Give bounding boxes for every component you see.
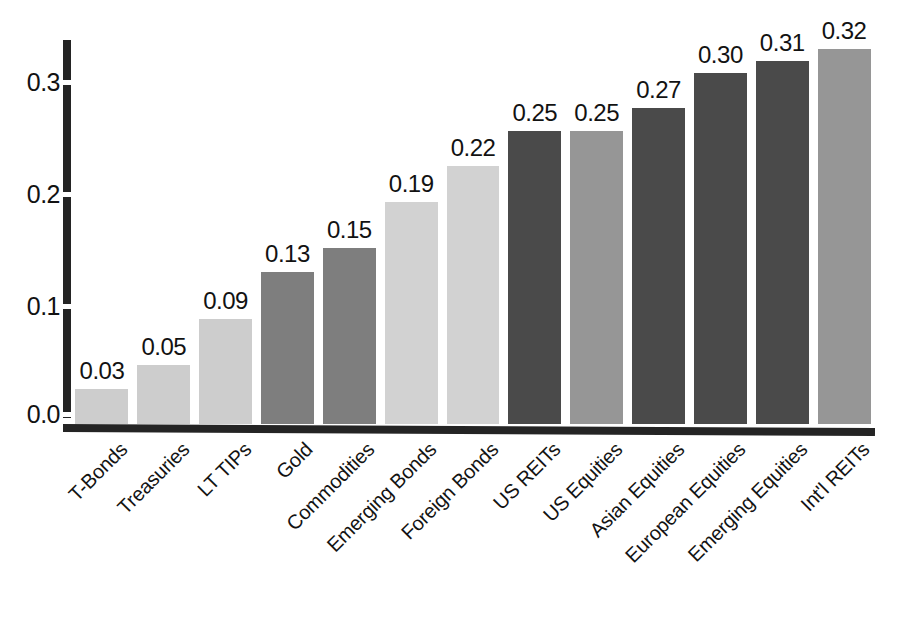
bar-group: 0.13 bbox=[261, 20, 314, 424]
bar bbox=[818, 49, 871, 424]
bar-value-label: 0.25 bbox=[512, 101, 557, 125]
bar bbox=[75, 389, 128, 424]
bar bbox=[323, 248, 376, 424]
bar bbox=[570, 131, 623, 424]
bar-value-label: 0.05 bbox=[141, 335, 186, 359]
bar-value-label: 0.32 bbox=[822, 19, 867, 43]
bar bbox=[261, 272, 314, 424]
y-tick-label-0.2: 0.2 bbox=[0, 182, 60, 207]
bar-value-label: 0.09 bbox=[203, 289, 248, 313]
bar bbox=[137, 365, 190, 424]
x-axis-label: Gold bbox=[272, 438, 318, 484]
bar-chart: 0.3 0.2 0.1 0.0 0.030.050.090.130.150.19… bbox=[0, 0, 907, 617]
bar bbox=[756, 61, 809, 424]
x-axis-label: LT TIPs bbox=[193, 438, 256, 501]
bar-group: 0.19 bbox=[385, 20, 438, 424]
bar-group: 0.25 bbox=[570, 20, 623, 424]
bar bbox=[694, 73, 747, 424]
bar bbox=[632, 108, 685, 424]
bar-group: 0.03 bbox=[75, 20, 128, 424]
bar-group: 0.15 bbox=[323, 20, 376, 424]
bar-group: 0.05 bbox=[137, 20, 190, 424]
bar-value-label: 0.15 bbox=[327, 218, 372, 242]
bar-value-label: 0.19 bbox=[389, 172, 434, 196]
x-axis-label: Emerging Bonds bbox=[323, 438, 442, 557]
bar-value-label: 0.25 bbox=[574, 101, 619, 125]
x-axis-label: Emerging Equities bbox=[684, 438, 813, 567]
bar bbox=[447, 166, 500, 424]
bar-group: 0.27 bbox=[632, 20, 685, 424]
bar bbox=[385, 202, 438, 424]
y-tick-label-0.3: 0.3 bbox=[0, 70, 60, 95]
bar-value-label: 0.13 bbox=[265, 242, 310, 266]
bar-value-label: 0.03 bbox=[80, 359, 125, 383]
bar-value-label: 0.22 bbox=[451, 136, 496, 160]
bar-group: 0.30 bbox=[694, 20, 747, 424]
x-axis-labels: T-BondsTreasuriesLT TIPsGoldCommoditiesE… bbox=[71, 438, 875, 613]
bar-value-label: 0.31 bbox=[760, 31, 805, 55]
x-axis-line bbox=[63, 424, 875, 436]
bar-group: 0.22 bbox=[447, 20, 500, 424]
plot-area: 0.030.050.090.130.150.190.220.250.250.27… bbox=[71, 20, 875, 424]
bar-group: 0.25 bbox=[508, 20, 561, 424]
bar-group: 0.09 bbox=[199, 20, 252, 424]
bar bbox=[508, 131, 561, 424]
bar-value-label: 0.30 bbox=[698, 43, 743, 67]
y-axis-line bbox=[63, 40, 71, 418]
y-tick-label-0.0: 0.0 bbox=[0, 402, 60, 427]
bar-value-label: 0.27 bbox=[636, 78, 681, 102]
y-tick-label-0.1: 0.1 bbox=[0, 294, 60, 319]
bar bbox=[199, 319, 252, 424]
bar-group: 0.32 bbox=[818, 20, 871, 424]
bar-group: 0.31 bbox=[756, 20, 809, 424]
